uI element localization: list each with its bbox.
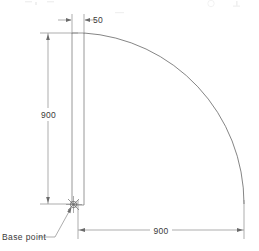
cropped-edge-artifacts	[25, 0, 240, 13]
cad-drawing-canvas: 50 900	[0, 0, 259, 251]
dimension-value-thickness: 50	[93, 15, 103, 25]
dimension-value-radius: 900	[153, 226, 168, 236]
dimension-panel-thickness: 50	[58, 14, 103, 34]
door-panel	[72, 33, 84, 205]
dimension-value-height: 900	[41, 110, 56, 120]
base-point-label: Base point	[2, 232, 46, 242]
swing-arc	[84, 33, 244, 204]
dimension-swing-radius: 900	[78, 200, 244, 239]
base-point-center-dot-icon	[72, 203, 74, 205]
door-swing-drawing: 50 900	[0, 0, 259, 251]
